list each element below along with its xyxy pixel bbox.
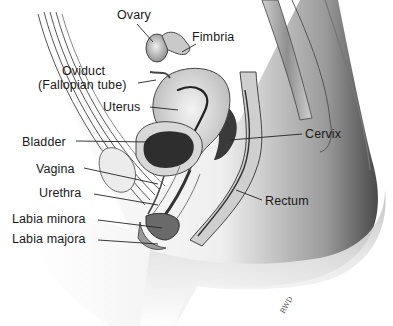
label-vagina: Vagina	[36, 162, 75, 176]
label-oviduct: Oviduct	[62, 64, 105, 78]
label-fallopian-tube: (Fallopian tube)	[38, 78, 126, 92]
label-ovary: Ovary	[117, 8, 151, 22]
label-cervix: Cervix	[305, 127, 341, 141]
pubic-bone	[99, 148, 135, 193]
artist-signature: RWD	[279, 295, 295, 315]
label-uterus: Uterus	[103, 100, 140, 114]
label-bladder: Bladder	[22, 135, 66, 149]
anatomy-figure: RWD Ovary Fimbria Oviduct (Fallopian tub…	[0, 0, 393, 326]
label-fimbria: Fimbria	[192, 30, 234, 44]
label-urethra: Urethra	[39, 186, 81, 200]
label-labia-majora: Labia majora	[12, 232, 85, 246]
label-rectum: Rectum	[265, 194, 309, 208]
label-labia-minora: Labia minora	[12, 212, 85, 226]
